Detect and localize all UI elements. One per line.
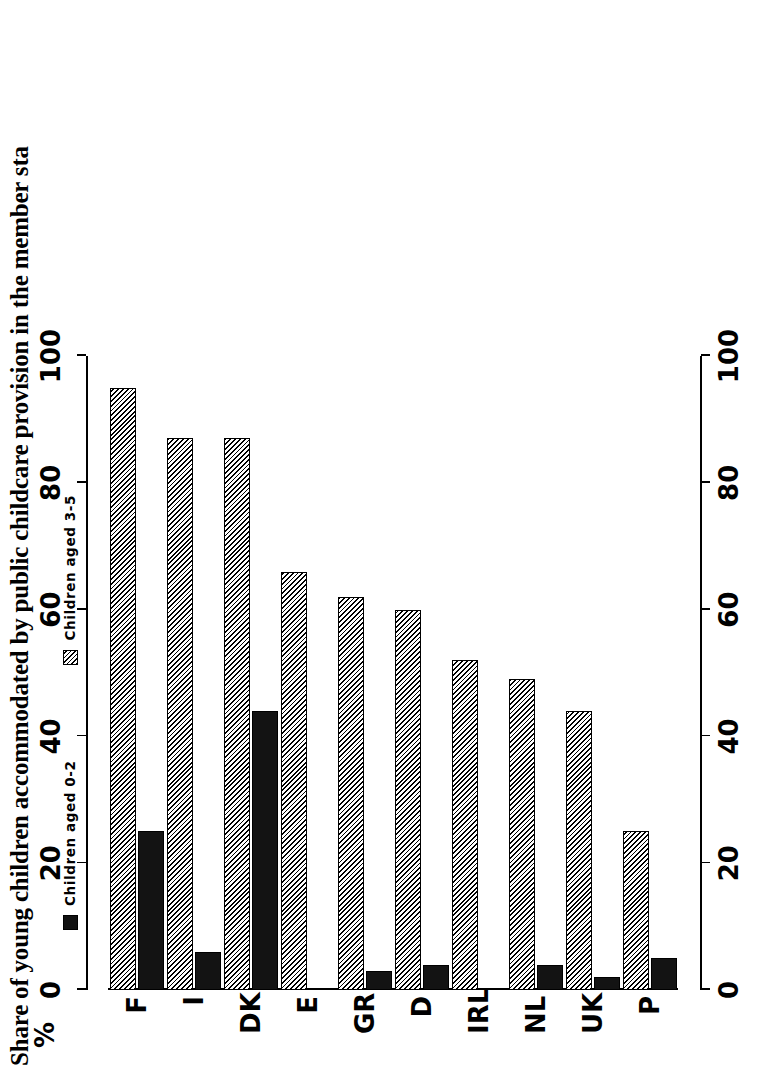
category-label-irl: IRL: [464, 996, 494, 1034]
bar-i-aged-3-5: [167, 438, 193, 990]
rotated-figure-frame: Share of young children accommodated by …: [0, 0, 772, 1078]
axis-tick-label: 0: [36, 981, 66, 999]
axis-tick-label: 60: [36, 592, 66, 628]
axis-tick: [77, 988, 86, 990]
legend-swatch-solid-icon: [63, 915, 78, 930]
axis-tick-label: 20: [714, 845, 744, 881]
category-label-i: I: [179, 996, 209, 1034]
axis-tick-label: 80: [36, 465, 66, 501]
bar-d-aged-0-2: [423, 965, 449, 990]
bar-nl-aged-0-2: [537, 965, 563, 990]
axis-tick: [701, 481, 710, 483]
page-title: Share of young children accommodated by …: [6, 6, 34, 1066]
bar-group-irl: IRL: [450, 356, 507, 990]
category-label-d: D: [407, 996, 437, 1034]
axis-tick: [77, 862, 86, 864]
bar-dk-aged-0-2: [252, 711, 278, 990]
bar-group-i: I: [165, 356, 222, 990]
bar-irl-aged-3-5: [452, 660, 478, 990]
category-label-dk: DK: [236, 996, 266, 1034]
bar-gr-aged-3-5: [338, 597, 364, 990]
category-label-uk: UK: [578, 996, 608, 1034]
bar-group-gr: GR: [336, 356, 393, 990]
category-label-f: F: [122, 996, 152, 1034]
bar-group-uk: UK: [564, 356, 621, 990]
category-label-gr: GR: [350, 996, 380, 1034]
category-label-p: P: [635, 996, 665, 1034]
bar-f-aged-0-2: [138, 832, 164, 991]
axis-tick: [77, 354, 86, 356]
bar-group-dk: DK: [222, 356, 279, 990]
value-axis-top: [86, 356, 88, 990]
bar-group-p: P: [621, 356, 678, 990]
bar-p-aged-0-2: [651, 958, 677, 990]
bar-uk-aged-0-2: [594, 977, 620, 990]
bar-dk-aged-3-5: [224, 438, 250, 990]
bar-uk-aged-3-5: [566, 711, 592, 990]
axis-unit-label: %: [30, 1022, 60, 1048]
bar-group-e: E: [279, 356, 336, 990]
legend-label-children-0-2: Children aged 0-2: [62, 761, 78, 906]
bar-group-d: D: [393, 356, 450, 990]
bar-gr-aged-0-2: [366, 971, 392, 990]
axis-tick-label: 100: [714, 329, 744, 383]
axis-tick: [701, 354, 710, 356]
legend-swatch-hatch-icon: [63, 650, 78, 665]
value-axis-bottom: [700, 356, 702, 990]
axis-tick-label: 60: [714, 592, 744, 628]
axis-tick-label: 40: [714, 718, 744, 754]
axis-tick-label: 20: [36, 845, 66, 881]
category-label-e: E: [293, 996, 323, 1034]
axis-tick-label: 0: [714, 981, 744, 999]
axis-tick: [77, 735, 86, 737]
bar-i-aged-0-2: [195, 952, 221, 990]
axis-tick: [701, 862, 710, 864]
bar-e-aged-3-5: [281, 572, 307, 990]
bar-p-aged-3-5: [623, 832, 649, 991]
axis-tick: [77, 608, 86, 610]
legend-item-children-3-5: Children aged 3-5: [62, 495, 78, 664]
axis-tick: [77, 481, 86, 483]
bar-nl-aged-3-5: [509, 679, 535, 990]
axis-tick-label: 40: [36, 718, 66, 754]
bar-d-aged-3-5: [395, 610, 421, 990]
axis-tick-label: 80: [714, 465, 744, 501]
axis-tick: [701, 988, 710, 990]
axis-tick: [701, 735, 710, 737]
bar-f-aged-3-5: [110, 388, 136, 990]
bar-group-nl: NL: [507, 356, 564, 990]
bar-chart-plot-area: % 020406080100 020406080100 FIDKEGRDIRLN…: [108, 356, 678, 990]
axis-tick-label: 100: [36, 329, 66, 383]
bar-group-f: F: [108, 356, 165, 990]
axis-tick: [701, 608, 710, 610]
category-label-nl: NL: [521, 996, 551, 1034]
